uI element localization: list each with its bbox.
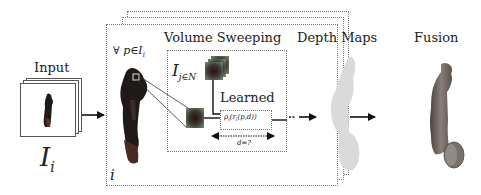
fusion-title: Fusion xyxy=(414,30,458,45)
for-all-pixels-label: ∀ p∈Ii xyxy=(113,44,145,59)
depth-map-image xyxy=(331,57,360,170)
input-symbol: Ii xyxy=(40,142,55,175)
volume-sweeping-title: Volume Sweeping xyxy=(164,30,281,45)
input-statue-thumbnail xyxy=(44,94,53,128)
neighbor-to-learned-line xyxy=(213,80,220,114)
input-label: Input xyxy=(34,60,69,75)
projection-line-bottom xyxy=(137,80,186,127)
reference-patch xyxy=(186,108,204,128)
neighbor-patches-stack xyxy=(205,56,229,80)
input-symbol-sub: i xyxy=(50,159,54,175)
view-index-label: i xyxy=(110,166,115,184)
learned-label: Learned xyxy=(220,90,275,105)
input-symbol-main: I xyxy=(40,142,50,172)
depth-sweep-label: d=? xyxy=(237,139,251,147)
fusion-model xyxy=(430,63,464,168)
depth-maps-title: Depth Maps xyxy=(297,30,377,45)
neighbor-views-label: Ij∈N xyxy=(172,60,196,82)
reference-view-statue xyxy=(120,68,147,164)
learned-function-formula: ρi(ri(p,d)) xyxy=(224,113,257,122)
